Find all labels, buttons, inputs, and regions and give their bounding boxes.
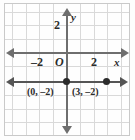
y-axis-name-label: y xyxy=(71,12,76,23)
grid-line-vertical xyxy=(12,4,13,135)
plot-line-arrow-left-icon xyxy=(6,77,14,87)
x-axis-arrow-right-icon xyxy=(121,48,129,58)
grid-line-vertical xyxy=(39,4,40,135)
x-axis-tick-label-negative-two: –2 xyxy=(31,56,43,68)
y-axis xyxy=(66,11,68,128)
origin-label: O xyxy=(55,56,64,68)
grid-line-vertical xyxy=(80,4,81,135)
coordinate-plane-figure: –2 2 2 O x y (0, –2) (3, –2) xyxy=(0,0,135,140)
y-axis-arrow-down-icon xyxy=(62,126,72,134)
point-b-coordinate-label: (3, –2) xyxy=(72,87,99,97)
plotted-point-b xyxy=(103,78,110,85)
grid-line-vertical xyxy=(26,4,27,135)
grid-line-vertical xyxy=(121,4,122,135)
y-axis-tick-label-two: 2 xyxy=(54,19,60,31)
grid-line-vertical xyxy=(107,4,108,135)
grid-line-vertical xyxy=(94,4,95,135)
plot-line-arrow-right-icon xyxy=(120,77,128,87)
x-axis-arrow-left-icon xyxy=(6,48,14,58)
plotted-point-a xyxy=(63,78,70,85)
point-a-coordinate-label: (0, –2) xyxy=(27,87,54,97)
x-axis-tick-label-two: 2 xyxy=(91,56,97,68)
x-axis-name-label: x xyxy=(114,57,120,68)
